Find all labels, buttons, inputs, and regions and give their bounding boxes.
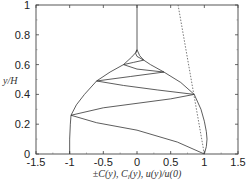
y-axis-ticks: 00.20.40.60.81 — [15, 0, 238, 160]
y-tick-label: 0.6 — [15, 59, 30, 71]
x-tick-label: 1.5 — [230, 156, 245, 168]
chart: -1.5-1-0.500.511.5 00.20.40.60.81 y/H ±C… — [0, 0, 248, 182]
y-tick-label: 0.4 — [15, 88, 30, 100]
y-tick-label: 1 — [24, 0, 30, 11]
x-axis-label: ±C(y), Cl(y), u(y)/u(0) — [93, 168, 182, 181]
y-tick-label: 0.2 — [15, 118, 30, 130]
x-tick-label: 0.5 — [163, 156, 178, 168]
x-tick-label: -0.5 — [94, 156, 113, 168]
x-axis-ticks: -1.5-1-0.500.511.5 — [27, 5, 246, 168]
series-line — [71, 5, 204, 154]
series-line — [178, 5, 204, 154]
y-axis-label: y/H — [2, 75, 18, 86]
y-tick-label: 0 — [24, 148, 30, 160]
series-layer — [70, 5, 207, 154]
y-tick-label: 0.8 — [15, 29, 30, 41]
x-tick-label: 0 — [134, 156, 140, 168]
x-tick-label: -1 — [65, 156, 75, 168]
x-tick-label: 1 — [201, 156, 207, 168]
